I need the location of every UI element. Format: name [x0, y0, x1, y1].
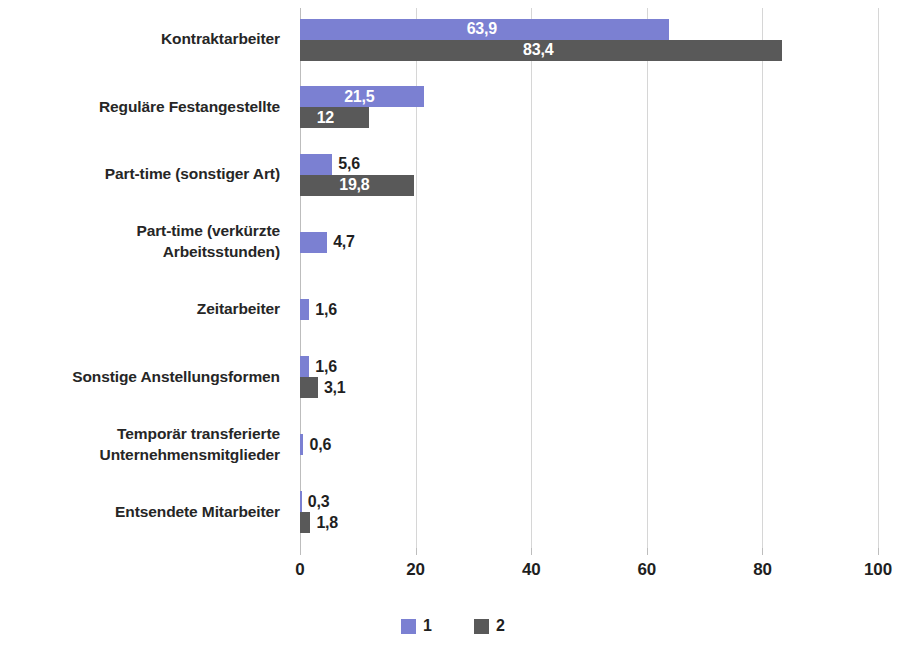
x-tick-label-100: 100 [864, 560, 892, 580]
category-label-7: Entsendete Mitarbeiter [0, 502, 280, 523]
chart-legend: 12 [0, 617, 906, 635]
category-label-line: Entsendete Mitarbeiter [0, 502, 280, 523]
bar-series-1-3 [300, 232, 327, 253]
bar-value-label-series-2-0: 83,4 [523, 42, 553, 58]
bar-series-2-5 [300, 377, 318, 398]
legend-swatch-icon-1 [401, 619, 416, 634]
bar-value-label-series-1-5: 1,6 [315, 359, 337, 375]
bar-series-2-7 [300, 512, 310, 533]
x-tick-label-0: 0 [295, 560, 304, 580]
category-label-6: Temporär transferierteUnternehmensmitgli… [0, 424, 280, 466]
category-label-line: Arbeitsstunden) [0, 242, 280, 263]
category-label-1: Reguläre Festangestellte [0, 97, 280, 118]
bar-series-1-5 [300, 356, 309, 377]
category-label-line: Temporär transferierte [0, 424, 280, 445]
bar-value-label-series-1-7: 0,3 [308, 494, 330, 510]
gridline-60 [647, 8, 648, 548]
x-tick-label-40: 40 [522, 560, 541, 580]
category-label-4: Zeitarbeiter [0, 299, 280, 320]
bar-value-label-series-1-2: 5,6 [338, 156, 360, 172]
bar-value-label-series-1-3: 4,7 [333, 234, 355, 250]
bar-value-label-series-1-1: 21,5 [344, 89, 374, 105]
gridline-80 [762, 8, 763, 548]
bar-series-1-7 [300, 491, 302, 512]
legend-swatch-icon-2 [474, 619, 489, 634]
category-label-line: Kontraktarbeiter [0, 29, 280, 50]
category-label-line: Reguläre Festangestellte [0, 97, 280, 118]
bar-value-label-series-1-0: 63,9 [467, 21, 497, 37]
legend-item-1[interactable]: 1 [401, 617, 432, 635]
bar-value-label-series-1-4: 1,6 [315, 302, 337, 318]
category-label-0: Kontraktarbeiter [0, 29, 280, 50]
plot-area: 63,983,421,5125,619,84,71,61,63,10,60,31… [300, 8, 878, 548]
bar-value-label-series-2-2: 19,8 [339, 177, 369, 193]
bar-series-1-4 [300, 299, 309, 320]
category-label-3: Part-time (verkürzteArbeitsstunden) [0, 221, 280, 263]
x-axis-tick-80 [762, 548, 763, 555]
bar-series-1-2 [300, 154, 332, 175]
bar-value-label-series-2-5: 3,1 [324, 380, 346, 396]
x-axis-tick-100 [878, 548, 879, 555]
bar-value-label-series-1-6: 0,6 [309, 437, 331, 453]
y-axis-category-labels: KontraktarbeiterReguläre Festangestellte… [0, 8, 290, 548]
x-tick-label-60: 60 [638, 560, 657, 580]
legend-label-2: 2 [496, 617, 505, 635]
x-axis-tick-20 [416, 548, 417, 555]
x-axis-tick-0 [300, 548, 301, 555]
bar-value-label-series-2-7: 1,8 [316, 515, 338, 531]
gridline-40 [531, 8, 532, 548]
x-axis-tick-40 [531, 548, 532, 555]
x-axis-tick-60 [647, 548, 648, 555]
category-label-2: Part-time (sonstiger Art) [0, 164, 280, 185]
bar-series-1-6 [300, 434, 303, 455]
category-label-line: Unternehmensmitglieder [0, 445, 280, 466]
x-tick-label-80: 80 [753, 560, 772, 580]
category-label-line: Part-time (sonstiger Art) [0, 164, 280, 185]
bar-series-2-1 [300, 107, 369, 128]
bar-chart: KontraktarbeiterReguläre Festangestellte… [0, 0, 906, 656]
category-label-line: Sonstige Anstellungsformen [0, 367, 280, 388]
category-label-line: Zeitarbeiter [0, 299, 280, 320]
gridline-100 [878, 8, 879, 548]
category-label-line: Part-time (verkürzte [0, 221, 280, 242]
bar-value-label-series-2-1: 12 [317, 110, 334, 126]
x-tick-label-20: 20 [406, 560, 425, 580]
legend-label-1: 1 [423, 617, 432, 635]
legend-item-2[interactable]: 2 [474, 617, 505, 635]
category-label-5: Sonstige Anstellungsformen [0, 367, 280, 388]
